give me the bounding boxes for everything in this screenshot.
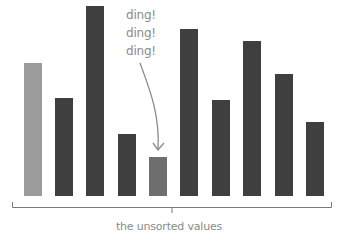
ding-annotation: ding! ding! ding! bbox=[126, 6, 156, 60]
annotation-arrow-icon bbox=[140, 63, 158, 150]
bracket-icon bbox=[13, 202, 332, 208]
sorting-diagram: ding! ding! ding! the unsorted values bbox=[0, 0, 338, 246]
annotation-arrow-layer bbox=[0, 0, 338, 246]
annotation-line-1: ding! bbox=[126, 6, 156, 24]
annotation-line-2: ding! bbox=[126, 24, 156, 42]
annotation-line-3: ding! bbox=[126, 42, 156, 60]
bracket-label: the unsorted values bbox=[0, 220, 338, 233]
